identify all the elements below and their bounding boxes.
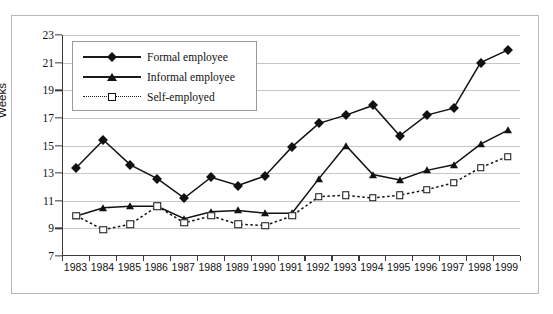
triangle-marker-icon <box>396 176 404 183</box>
square-marker-icon <box>154 203 162 211</box>
square-marker-icon <box>450 179 458 187</box>
legend-item-formal-employee: Formal employee <box>81 47 248 67</box>
square-marker-icon <box>108 93 116 101</box>
y-axis-tick <box>55 34 62 35</box>
y-axis-tick-label: 17 <box>43 112 55 124</box>
x-axis-tick <box>304 256 305 261</box>
legend-key-informal-employee <box>81 70 143 84</box>
x-axis-tick-label: 1995 <box>387 261 410 273</box>
square-marker-icon <box>288 212 296 220</box>
chart-legend: Formal employee Informal employee Self-e… <box>72 41 257 111</box>
y-axis-title: Weeks <box>0 83 8 118</box>
x-axis-tick-label: 1988 <box>198 261 221 273</box>
square-marker-icon <box>504 153 512 161</box>
triangle-marker-icon <box>261 209 269 216</box>
square-marker-icon <box>477 164 485 172</box>
triangle-marker-icon <box>107 73 117 81</box>
x-axis-tick-label: 1983 <box>64 261 87 273</box>
triangle-marker-icon <box>369 171 377 178</box>
triangle-marker-icon <box>234 207 242 214</box>
square-marker-icon <box>127 220 135 228</box>
x-axis-tick <box>143 256 144 261</box>
legend-label-informal-employee: Informal employee <box>143 71 235 83</box>
diamond-marker-icon <box>107 52 117 62</box>
x-axis-tick-label: 1992 <box>306 261 329 273</box>
chart-figure: Weeks 7911131517192123 19831984198519861… <box>0 0 553 314</box>
legend-key-formal-employee <box>81 50 143 64</box>
triangle-marker-icon <box>450 161 458 168</box>
x-axis-tick <box>197 256 198 261</box>
x-axis-tick-label: 1996 <box>414 261 437 273</box>
y-axis-tick <box>55 228 62 229</box>
y-axis-tick-label: 21 <box>43 57 55 69</box>
x-axis-tick <box>358 256 359 261</box>
y-axis-tick-label: 19 <box>43 84 55 96</box>
triangle-marker-icon <box>423 167 431 174</box>
triangle-marker-icon <box>342 142 350 149</box>
square-marker-icon <box>234 220 242 228</box>
y-axis-tick-label: 11 <box>43 195 54 207</box>
y-axis-tick <box>55 90 62 91</box>
y-axis-tick <box>55 255 62 256</box>
x-axis-tick <box>170 256 171 261</box>
x-axis-tick-label: 1998 <box>468 261 491 273</box>
y-axis-tick-label: 7 <box>48 250 54 262</box>
x-axis-tick-label: 1993 <box>333 261 356 273</box>
y-axis-tick <box>55 200 62 201</box>
y-axis-tick-label: 23 <box>43 29 55 41</box>
x-axis-tick <box>89 256 90 261</box>
x-axis-tick <box>251 256 252 261</box>
y-axis-tick <box>55 117 62 118</box>
x-axis-tick-label: 1997 <box>441 261 464 273</box>
square-marker-icon <box>100 226 108 234</box>
y-axis-tick <box>55 172 62 173</box>
triangle-marker-icon <box>504 126 512 133</box>
y-axis-tick-label: 13 <box>43 167 55 179</box>
square-marker-icon <box>396 191 404 199</box>
x-axis-tick-label: 1990 <box>252 261 275 273</box>
triangle-marker-icon <box>126 202 134 209</box>
x-axis-tick-label: 1986 <box>145 261 168 273</box>
x-axis-tick <box>466 256 467 261</box>
square-marker-icon <box>423 186 431 194</box>
x-axis-tick <box>331 256 332 261</box>
y-axis-tick <box>55 145 62 146</box>
x-axis-tick <box>62 256 63 261</box>
legend-item-self-employed: Self-employed <box>81 87 248 107</box>
square-marker-icon <box>261 222 269 230</box>
legend-key-self-employed <box>81 90 143 104</box>
square-marker-icon <box>369 194 377 202</box>
x-axis-tick <box>439 256 440 261</box>
x-axis-tick <box>385 256 386 261</box>
triangle-marker-icon <box>99 204 107 211</box>
x-axis-tick-label: 1987 <box>172 261 195 273</box>
x-axis-tick-label: 1985 <box>118 261 141 273</box>
x-axis-tick <box>520 256 521 261</box>
triangle-marker-icon <box>477 140 485 147</box>
x-axis-tick <box>412 256 413 261</box>
legend-label-self-employed: Self-employed <box>143 91 215 103</box>
x-axis-tick <box>116 256 117 261</box>
y-axis-tick-label: 9 <box>48 222 54 234</box>
legend-item-informal-employee: Informal employee <box>81 67 248 87</box>
x-axis-tick-label: 1994 <box>360 261 383 273</box>
y-axis-tick-label: 15 <box>43 140 55 152</box>
square-marker-icon <box>180 219 188 227</box>
x-axis-tick-label: 1989 <box>225 261 248 273</box>
square-marker-icon <box>342 191 350 199</box>
x-axis-tick-label: 1991 <box>279 261 302 273</box>
square-marker-icon <box>207 212 215 220</box>
legend-label-formal-employee: Formal employee <box>143 51 228 63</box>
x-axis-tick <box>224 256 225 261</box>
triangle-marker-icon <box>315 175 323 182</box>
x-axis-tick-label: 1984 <box>91 261 114 273</box>
x-axis-tick-label: 1999 <box>495 261 518 273</box>
square-marker-icon <box>73 212 81 220</box>
x-axis-tick <box>278 256 279 261</box>
x-axis-tick <box>493 256 494 261</box>
square-marker-icon <box>315 193 323 201</box>
y-axis-tick <box>55 62 62 63</box>
